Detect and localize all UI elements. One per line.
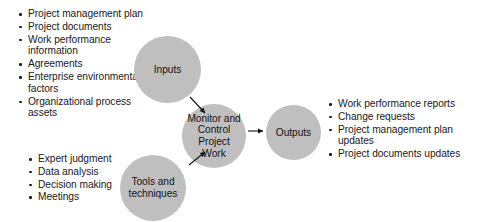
list-item: Enterprise environmental factors — [17, 71, 152, 95]
list-item: Organizational process assets — [17, 96, 152, 120]
list-item: Work performance reports — [327, 98, 477, 110]
node-outputs: Outputs — [266, 105, 321, 160]
list-item: Expert judgment — [27, 153, 147, 165]
inputs-bullet-list: Project management plan Project document… — [17, 8, 152, 120]
list-item: Change requests — [327, 111, 477, 123]
list-item: Project management plan updates — [327, 124, 477, 148]
node-inputs: Inputs — [134, 36, 201, 103]
list-item: Work performance information — [17, 34, 152, 58]
node-tools-and-techniques: Tools and techniques — [120, 155, 186, 221]
node-inputs-label: Inputs — [150, 64, 185, 76]
node-process-label: Monitor and Control Project Work — [182, 113, 246, 159]
node-monitor-and-control-project-work: Monitor and Control Project Work — [182, 104, 246, 168]
process-flow-diagram: Project management plan Project document… — [0, 0, 477, 222]
list-item: Project documents updates — [327, 148, 477, 160]
outputs-bullet-list: Work performance reports Change requests… — [327, 98, 477, 161]
list-item: Project documents — [17, 21, 152, 33]
node-outputs-label: Outputs — [272, 127, 315, 139]
node-tools-label: Tools and techniques — [120, 176, 186, 199]
list-item: Agreements — [17, 58, 152, 70]
list-item: Project management plan — [17, 8, 152, 20]
